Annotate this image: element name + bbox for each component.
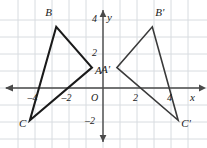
x-tick-label-neg2: –2 bbox=[62, 93, 72, 103]
y-tick-label-neg2: –2 bbox=[85, 116, 95, 126]
x-axis-label: x bbox=[190, 92, 195, 103]
x-tick-label-neg4: –4 bbox=[28, 93, 38, 103]
vertex-label-c: C bbox=[19, 118, 26, 129]
x-axis-arrow-right bbox=[199, 85, 206, 92]
figure-canvas: ABCA'B'C'–4–22442–2Oxy bbox=[0, 0, 207, 148]
origin-label: O bbox=[91, 93, 98, 103]
triangle-a-prime-b-prime-c-prime bbox=[117, 27, 178, 121]
vertex-label-b: B bbox=[45, 7, 52, 18]
y-axis-arrow-up bbox=[100, 10, 107, 17]
y-tick-label-pos2: 2 bbox=[92, 48, 97, 58]
x-axis-arrow-left bbox=[5, 85, 13, 92]
vertex-label-c-prime: C' bbox=[181, 118, 191, 129]
y-tick-label-pos4: 4 bbox=[92, 14, 97, 24]
x-tick-label-pos4: 4 bbox=[167, 93, 172, 103]
x-tick-label-pos2: 2 bbox=[133, 93, 138, 103]
vertex-label-b-prime: B' bbox=[155, 7, 164, 18]
y-axis-label: y bbox=[107, 12, 112, 23]
vertex-label-a-prime: A' bbox=[101, 64, 110, 75]
triangle-abc bbox=[30, 27, 92, 121]
